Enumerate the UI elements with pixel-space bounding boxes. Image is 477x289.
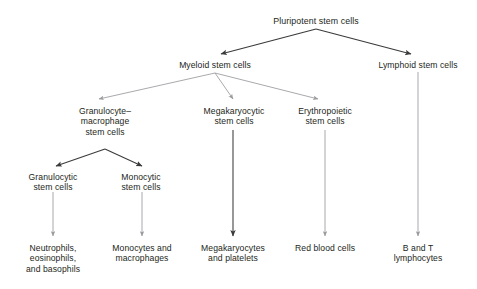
node-label-line: Neutrophils, — [26, 243, 80, 253]
node-label-line: Pluripotent stem cells — [273, 16, 359, 26]
node-label-line: and platelets — [201, 253, 265, 263]
node-label-b-and-t: B and Tlymphocytes — [394, 243, 443, 264]
node-label-red-blood-cells: Red blood cells — [295, 243, 355, 253]
node-label-line: B and T — [394, 243, 443, 253]
edge-myeloid-to-granulocyte-macrophage — [99, 73, 215, 99]
node-label-line: Granulocytic — [29, 172, 78, 182]
node-label-erythropoietic: Erythropoieticstem cells — [298, 106, 352, 127]
node-label-line: Monocytes and — [112, 243, 171, 253]
node-label-megakaryocytic: Megakaryocyticstem cells — [204, 106, 265, 127]
node-label-line: stem cells — [298, 116, 352, 126]
node-label-line: Megakaryocytic — [204, 106, 265, 116]
node-label-line: lymphocytes — [394, 253, 443, 263]
node-label-line: stem cells — [204, 116, 265, 126]
node-label-monocytic: Monocyticstem cells — [121, 172, 160, 193]
node-label-lymphoid: Lymphoid stem cells — [378, 60, 457, 70]
edge-granulocyte-macrophage-to-granulocytic — [56, 149, 105, 166]
node-label-line: Lymphoid stem cells — [378, 60, 457, 70]
edge-pluripotent-to-myeloid — [221, 29, 316, 54]
node-label-line: Erythropoietic — [298, 106, 352, 116]
node-label-granulocytic: Granulocyticstem cells — [29, 172, 78, 193]
node-label-myeloid: Myeloid stem cells — [179, 60, 251, 70]
node-label-pluripotent: Pluripotent stem cells — [273, 16, 359, 26]
node-label-line: Megakaryocytes — [201, 243, 265, 253]
node-label-line: macrophage — [79, 116, 131, 126]
node-label-line: Myeloid stem cells — [179, 60, 251, 70]
edge-granulocyte-macrophage-to-monocytic — [105, 149, 142, 166]
node-label-line: and basophils — [26, 264, 80, 274]
node-label-line: eosinophils, — [26, 253, 80, 263]
node-label-line: stem cells — [29, 182, 78, 192]
node-label-line: Granulocyte– — [79, 106, 131, 116]
edge-pluripotent-to-lymphoid — [316, 29, 411, 54]
node-label-monocytes: Monocytes andmacrophages — [112, 243, 171, 264]
node-label-line: Red blood cells — [295, 243, 355, 253]
hematopoiesis-diagram: Pluripotent stem cellsMyeloid stem cells… — [0, 0, 477, 289]
node-label-line: Monocytic — [121, 172, 160, 182]
node-label-line: stem cells — [121, 182, 160, 192]
node-label-neutrophils: Neutrophils,eosinophils,and basophils — [26, 243, 80, 274]
node-label-line: macrophages — [112, 253, 171, 263]
node-label-line: stem cells — [79, 127, 131, 137]
node-label-granulocyte-macrophage: Granulocyte–macrophagestem cells — [79, 106, 131, 137]
node-label-megakaryocytes: Megakaryocytesand platelets — [201, 243, 265, 264]
